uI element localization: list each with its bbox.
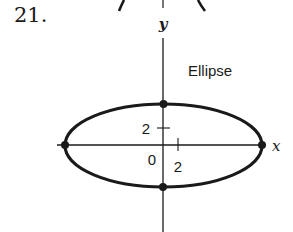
vertex-left	[61, 141, 69, 149]
vertex-top	[160, 100, 168, 108]
ellipse-figure: 21. y x Ellipse 2 0 2	[0, 0, 293, 232]
origin-label: 0	[148, 151, 156, 168]
x-tick-label: 2	[174, 158, 182, 175]
previous-curve-right	[198, 0, 205, 11]
y-axis-label: y	[158, 15, 169, 33]
ellipse-diagram: y x Ellipse 2 0 2	[0, 0, 293, 232]
previous-curve-left	[119, 0, 124, 11]
vertex-right	[258, 141, 266, 149]
diagram-title: Ellipse	[188, 62, 232, 79]
y-tick-label: 2	[142, 120, 150, 137]
vertex-bottom	[159, 183, 167, 191]
x-axis-label: x	[272, 137, 281, 155]
problem-number: 21.	[14, 3, 47, 27]
